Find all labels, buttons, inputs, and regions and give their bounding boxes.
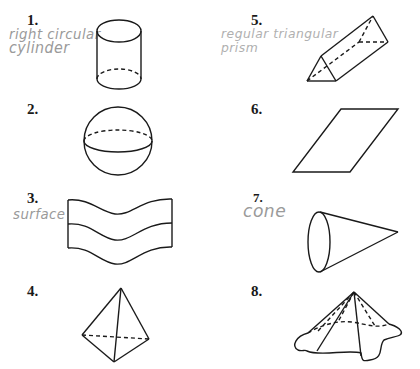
general-cone-figure	[295, 292, 402, 361]
wavy-surface-figure	[68, 199, 172, 264]
cylinder-figure	[97, 20, 141, 89]
parallelogram-figure	[293, 109, 398, 172]
cone-figure	[308, 212, 398, 272]
sphere-figure	[84, 107, 152, 175]
tetrahedron-figure	[82, 288, 149, 362]
triangular-prism-figure	[307, 16, 388, 81]
figures-canvas	[0, 0, 420, 369]
